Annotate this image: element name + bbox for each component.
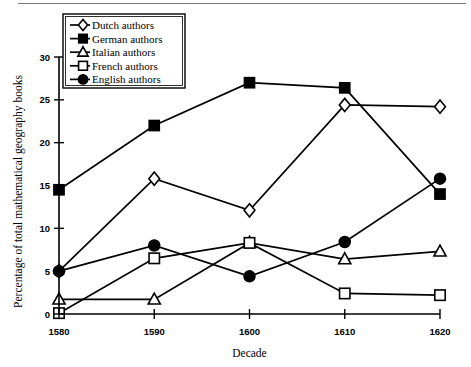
x-tick-label: 1610: [334, 326, 355, 337]
y-tick-label: 30: [39, 52, 50, 63]
legend-label: German authors: [92, 33, 163, 45]
x-tick-label: 1580: [48, 326, 69, 337]
series-markers: [54, 98, 446, 277]
x-axis-title: Decade: [232, 347, 266, 359]
axis-labels: 05101520253015801590160016101620DecadePe…: [12, 52, 451, 360]
series-markers: [54, 78, 445, 200]
legend-item: French authors: [70, 60, 158, 72]
line-chart: 05101520253015801590160016101620DecadePe…: [0, 0, 471, 367]
x-tick-label: 1620: [429, 326, 450, 337]
series-line: [59, 179, 440, 277]
y-tick-label: 20: [39, 137, 50, 148]
y-tick-label: 10: [39, 223, 50, 234]
legend-item: English authors: [70, 73, 161, 85]
y-tick-label: 5: [45, 266, 51, 277]
y-tick-label: 0: [45, 309, 50, 320]
legend-label: French authors: [92, 60, 158, 72]
y-axis-title: Percentage of total mathematical geograp…: [12, 75, 25, 308]
chart-page: 05101520253015801590160016101620DecadePe…: [0, 0, 471, 367]
x-tick-label: 1600: [239, 326, 260, 337]
legend-label: English authors: [92, 73, 161, 85]
series-line: [59, 83, 440, 194]
y-tick-label: 15: [39, 180, 50, 191]
legend-label: Dutch authors: [92, 19, 154, 31]
legend-label: Italian authors: [92, 46, 155, 58]
legend-item: German authors: [70, 33, 163, 45]
legend-item: Italian authors: [70, 46, 155, 58]
legend-item: Dutch authors: [70, 19, 154, 31]
series-markers: [53, 173, 445, 282]
y-tick-label: 25: [39, 94, 50, 105]
x-tick-label: 1590: [144, 326, 165, 337]
legend: Dutch authorsGerman authorsItalian autho…: [63, 14, 185, 88]
